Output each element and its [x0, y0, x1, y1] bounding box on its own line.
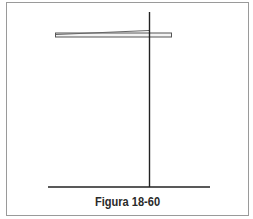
- figure-caption: Figura 18-60: [24, 194, 231, 209]
- diagram: [0, 0, 253, 219]
